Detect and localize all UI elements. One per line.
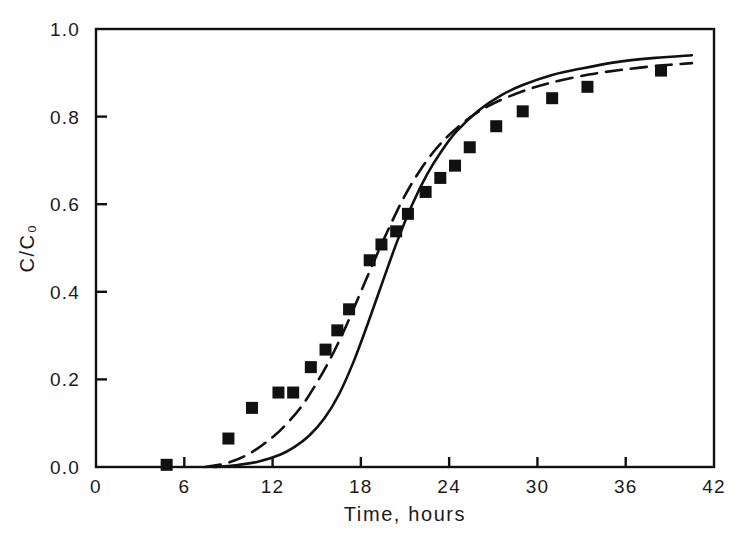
data-point-marker (517, 105, 529, 117)
data-point-marker (420, 186, 432, 198)
plot-frame (96, 29, 714, 467)
series-line (205, 63, 692, 467)
data-point-marker (434, 172, 446, 184)
y-tick-label: 0.8 (50, 107, 80, 128)
data-point-marker (222, 433, 234, 445)
x-tick-label: 0 (90, 476, 102, 497)
data-point-marker (375, 238, 387, 250)
data-point-marker (343, 303, 355, 315)
series-data-points (161, 65, 667, 471)
data-point-marker (320, 344, 332, 356)
x-tick-label: 42 (702, 476, 726, 497)
data-point-marker (402, 208, 414, 220)
series-line (214, 55, 692, 467)
data-point-marker (331, 324, 343, 336)
plot-area: 06121824303642 0.00.20.40.60.81.0 Time, … (0, 0, 743, 537)
data-point-marker (449, 160, 461, 172)
y-tick-label: 0.4 (50, 282, 80, 303)
data-point-marker (581, 81, 593, 93)
y-tick-label: 0.6 (50, 194, 80, 215)
y-tick-label: 0.0 (50, 457, 80, 478)
y-tick-label: 0.2 (50, 369, 80, 390)
data-point-marker (546, 92, 558, 104)
data-point-marker (287, 387, 299, 399)
data-point-marker (272, 387, 284, 399)
x-tick-label: 18 (349, 476, 373, 497)
data-point-marker (490, 120, 502, 132)
x-axis-title: Time, hours (344, 503, 466, 525)
data-point-marker (655, 65, 667, 77)
data-point-marker (464, 141, 476, 153)
data-point-marker (364, 254, 376, 266)
x-axis-tick-labels: 06121824303642 (90, 476, 726, 497)
chart-figure: 06121824303642 0.00.20.40.60.81.0 Time, … (0, 0, 743, 537)
y-axis-tick-labels: 0.00.20.40.60.81.0 (50, 19, 80, 478)
x-tick-label: 12 (261, 476, 285, 497)
x-tick-label: 24 (437, 476, 461, 497)
y-axis-title: C/C₀ (16, 223, 38, 272)
x-tick-label: 6 (178, 476, 190, 497)
data-point-marker (246, 402, 258, 414)
series-curves (205, 55, 692, 467)
axes-border (96, 29, 714, 467)
x-tick-label: 30 (526, 476, 550, 497)
y-tick-label: 1.0 (50, 19, 80, 40)
data-point-marker (305, 361, 317, 373)
data-point-marker (161, 459, 173, 471)
data-point-marker (390, 225, 402, 237)
x-tick-label: 36 (614, 476, 638, 497)
y-axis-ticks (96, 117, 107, 380)
